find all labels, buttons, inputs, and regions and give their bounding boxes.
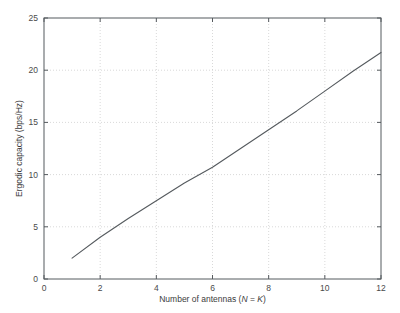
y-tick-label: 25: [29, 13, 39, 23]
x-tick-label: 12: [376, 283, 386, 293]
data-line-ergodic-capacity: [72, 52, 381, 258]
gridlines-group: [44, 18, 381, 279]
y-tick-labels-group: 0510152025: [29, 13, 39, 284]
x-tick-labels-group: 024681012: [42, 283, 386, 293]
x-tick-label: 4: [154, 283, 159, 293]
x-axis-title: Number of antennas (N = K): [159, 294, 266, 304]
ergodic-capacity-line-chart: 024681012 0510152025 Number of antennas …: [0, 0, 400, 313]
x-tick-label: 0: [42, 283, 47, 293]
y-tick-label: 0: [33, 274, 38, 284]
figure-canvas: 024681012 0510152025 Number of antennas …: [0, 0, 400, 313]
y-tick-label: 15: [29, 117, 39, 127]
data-series-group: [72, 52, 381, 258]
y-tick-label: 20: [29, 65, 39, 75]
y-tick-label: 5: [33, 222, 38, 232]
x-tick-label: 6: [210, 283, 215, 293]
x-tick-label: 2: [98, 283, 103, 293]
x-tick-label: 10: [320, 283, 330, 293]
y-axis-title: Ergodic capacity (bps/Hz): [14, 100, 24, 197]
x-tick-label: 8: [266, 283, 271, 293]
y-tick-label: 10: [29, 170, 39, 180]
